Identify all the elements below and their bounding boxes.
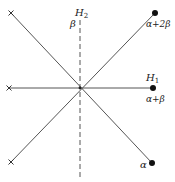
alpha-plus-2beta-dot: [152, 10, 158, 16]
h1-label: H1: [145, 72, 159, 85]
cross-bottom-left-icon: [9, 160, 14, 165]
alpha-plus-beta-label: α+β: [146, 94, 165, 104]
cross-top-left-icon: [9, 11, 14, 16]
alpha-label: α: [140, 159, 147, 170]
alpha-plus-beta-dot: [150, 85, 156, 91]
origin-point: [79, 87, 82, 90]
alpha-plus-2beta-label: α+2β: [146, 19, 171, 29]
beta-label: β: [69, 18, 76, 29]
root-system-diagram: H2 β H1 α+β α+2β α: [0, 0, 175, 182]
h2-label: H2: [74, 7, 88, 20]
alpha-dot: [149, 160, 155, 166]
